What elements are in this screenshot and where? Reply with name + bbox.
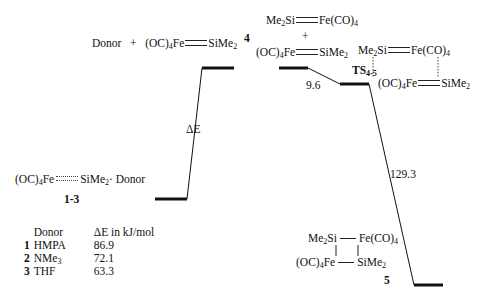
- me-text: Me: [308, 232, 323, 244]
- double-bond: [418, 80, 440, 86]
- adduct-1-3-formula: (OC)4FeSiMe2· Donor: [15, 174, 145, 186]
- table-header-row: Donor ΔE in kJ/mol: [24, 226, 158, 239]
- oc-text: (OC): [145, 37, 169, 49]
- row-value: 72.1: [94, 252, 158, 265]
- single-bond: [338, 262, 354, 263]
- row-donor: THF: [34, 265, 94, 278]
- dimer-4-bottom-formula: (OC)4FeSiMe2: [256, 47, 348, 59]
- dotted-bond: [56, 176, 78, 181]
- double-bond: [185, 40, 207, 46]
- oc-text: (OC): [378, 77, 402, 89]
- product-5-top-formula: Me2SiFe(CO)4: [308, 233, 398, 245]
- energy-header: ΔE in kJ/mol: [94, 226, 158, 239]
- single-bond: [340, 238, 356, 239]
- row-donor: HMPA: [34, 239, 94, 252]
- sime-text: SiMe: [319, 46, 344, 58]
- sub: 4: [446, 49, 450, 58]
- sub: 2: [466, 82, 470, 91]
- fe-text: Fe: [284, 46, 296, 58]
- fe-text: Fe: [43, 173, 55, 185]
- row-value: 86.9: [94, 239, 158, 252]
- si-text: Si: [377, 44, 387, 56]
- product-5-bottom-formula: (OC)4FeSiMe2: [296, 257, 386, 269]
- label-4: 4: [244, 33, 250, 45]
- label-1-3: 1-3: [64, 194, 79, 206]
- donor-header: Donor: [34, 226, 94, 239]
- ts-sub: 4-5: [366, 69, 377, 78]
- fe-text: Fe: [173, 37, 185, 49]
- table-row: 3 THF 63.3: [24, 265, 158, 278]
- donor-text: · Donor: [109, 173, 145, 185]
- num-header: [24, 226, 34, 239]
- connector-ts-to-5: [369, 84, 414, 285]
- row-num: 1: [24, 239, 34, 252]
- row-value: 63.3: [94, 265, 158, 278]
- ts-bottom-formula: (OC)4FeSiMe2: [378, 78, 470, 90]
- sub: 3: [57, 257, 61, 266]
- sub: 2: [233, 42, 237, 51]
- row-num: 3: [24, 265, 34, 278]
- reactant-4-formula: Donor + (OC)4FeSiMe2: [92, 38, 237, 50]
- barrier-label: 9.6: [306, 80, 320, 92]
- feco-text: Fe(CO): [411, 44, 446, 56]
- ts-top-formula: Me2SiFe(CO)4: [358, 45, 450, 57]
- oc-text: (OC): [256, 46, 280, 58]
- table-row: 2 NMe3 72.1: [24, 252, 158, 265]
- row-num: 2: [24, 252, 34, 265]
- sime-text: SiMe: [357, 256, 382, 268]
- feco-text: Fe(CO): [319, 14, 354, 26]
- double-bond: [296, 17, 318, 23]
- sub: 4: [354, 19, 358, 28]
- ts-text: TS: [352, 64, 366, 76]
- fe-text: Fe: [406, 77, 418, 89]
- si-text: Si: [285, 14, 295, 26]
- donor-name: NMe: [34, 252, 58, 264]
- sub: 4: [394, 237, 398, 246]
- dimer-4-top-formula: Me2SiFe(CO)4: [266, 15, 358, 27]
- me-text: Me: [266, 14, 281, 26]
- table-row: 1 HMPA 86.9: [24, 239, 158, 252]
- sub: 2: [344, 51, 348, 60]
- double-bond: [388, 47, 410, 53]
- oc-text: (OC): [15, 173, 39, 185]
- si-text: Si: [327, 232, 337, 244]
- label-5: 5: [384, 275, 390, 287]
- feco-text: Fe(CO): [359, 232, 394, 244]
- double-bond: [296, 49, 318, 55]
- exotherm-label: 129.3: [390, 169, 416, 181]
- row-donor: NMe3: [34, 252, 94, 265]
- donor-text: Donor: [92, 37, 121, 49]
- label-ts: TS4-5: [352, 65, 377, 77]
- me-text: Me: [358, 44, 373, 56]
- delta-e-label: ΔE: [186, 124, 200, 136]
- sime-text: SiMe: [208, 37, 233, 49]
- sub: 2: [382, 261, 386, 270]
- sime-text: SiMe: [80, 173, 105, 185]
- oc-text: (OC): [296, 256, 320, 268]
- fe-text: Fe: [324, 256, 336, 268]
- donor-energy-table: Donor ΔE in kJ/mol 1 HMPA 86.9 2 NMe3 72…: [24, 226, 158, 278]
- dimer-4-plus: +: [302, 31, 309, 43]
- sime-text: SiMe: [441, 77, 466, 89]
- plus-sign: +: [130, 37, 137, 49]
